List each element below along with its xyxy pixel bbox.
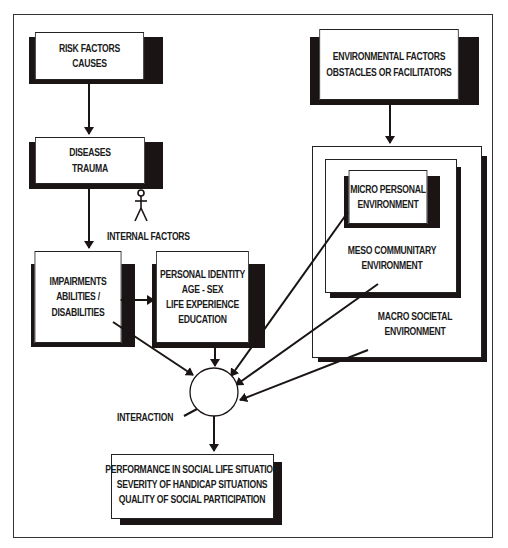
node-line: PERFORMANCE IN SOCIAL LIFE SITUATION [102,462,282,477]
interaction-label: INTERACTION [117,411,173,423]
interaction-node [190,368,238,416]
stick-figure-icon [135,190,147,221]
edge-impairments-to-interaction [113,322,193,375]
edge-macro-to-interaction [240,350,368,400]
internal-factors-label: INTERNAL FACTORS [107,230,190,242]
outcome-label: PERFORMANCE IN SOCIAL LIFE SITUATION SEV… [102,462,282,508]
edge-micro-to-interaction [231,212,348,376]
node-line: QUALITY OF SOCIAL PARTICIPATION [102,492,282,507]
node-line: SEVERITY OF HANDICAP SITUATIONS [102,477,282,492]
edge-meso-to-interaction [236,284,378,385]
interaction-pointer [184,409,197,416]
